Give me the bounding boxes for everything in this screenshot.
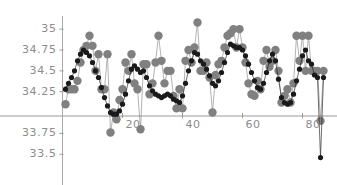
data-point — [216, 78, 221, 83]
data-point — [219, 70, 224, 75]
x-tick-label: 80 — [306, 119, 321, 130]
data-point — [258, 87, 263, 92]
data-point — [246, 62, 251, 67]
data-point — [243, 53, 248, 58]
data-point — [267, 58, 272, 63]
data-point — [85, 32, 93, 40]
data-point — [321, 75, 326, 80]
data-point — [103, 50, 111, 58]
data-point — [61, 100, 69, 108]
data-point — [175, 85, 183, 93]
y-tick-label: 33.75 — [22, 127, 57, 138]
data-point — [300, 53, 305, 58]
data-point — [204, 67, 209, 72]
data-point — [102, 95, 107, 100]
x-tick-label: 60 — [246, 119, 261, 130]
data-point — [240, 47, 245, 52]
data-point — [78, 52, 83, 57]
data-point — [235, 25, 243, 33]
data-point — [75, 58, 80, 63]
x-tick-label: 40 — [186, 119, 201, 130]
data-point — [69, 75, 74, 80]
data-point — [208, 108, 216, 116]
data-point — [94, 50, 102, 58]
data-point — [249, 70, 254, 75]
data-point — [141, 68, 146, 73]
data-point — [193, 18, 201, 26]
y-tick-label: 34.25 — [22, 86, 57, 97]
data-point — [318, 155, 323, 160]
data-point — [283, 85, 291, 93]
data-point — [87, 53, 92, 58]
y-tick-label: 35 — [41, 23, 56, 34]
data-point — [154, 32, 162, 40]
data-point — [303, 47, 308, 52]
data-point — [304, 32, 312, 40]
data-point — [66, 81, 71, 86]
data-point — [225, 50, 230, 55]
data-point — [120, 102, 125, 107]
data-point — [261, 81, 266, 86]
data-point — [252, 78, 257, 83]
data-point — [213, 83, 218, 88]
data-point — [297, 67, 302, 72]
data-point — [201, 62, 206, 67]
data-point — [250, 92, 258, 100]
data-point — [276, 77, 281, 82]
data-point — [70, 85, 78, 93]
data-point — [105, 103, 110, 108]
data-point — [106, 128, 114, 136]
data-point — [180, 93, 185, 98]
data-point — [166, 67, 174, 75]
data-point — [160, 79, 168, 87]
data-point — [88, 42, 96, 50]
chart-plot-area: 33.533.7534.2534.534.7535 20406080 — [0, 0, 337, 185]
data-point — [259, 57, 267, 65]
series-black — [63, 42, 326, 161]
data-point — [288, 100, 293, 105]
data-point — [63, 87, 68, 92]
data-point — [93, 68, 98, 73]
data-point — [315, 75, 320, 80]
data-point — [127, 50, 135, 58]
data-point — [99, 85, 104, 90]
data-point — [211, 71, 219, 79]
data-point — [309, 62, 314, 67]
data-point — [264, 70, 269, 75]
data-point — [183, 81, 188, 86]
data-point — [273, 58, 278, 63]
y-tick-label: 33.5 — [30, 148, 57, 159]
data-point — [73, 77, 81, 85]
x-tick-label: 20 — [126, 119, 141, 130]
data-point — [157, 57, 165, 65]
data-point — [142, 60, 150, 68]
data-point — [96, 75, 101, 80]
data-point — [126, 78, 131, 83]
data-point — [177, 100, 182, 105]
data-point — [319, 67, 327, 75]
data-point — [189, 58, 194, 63]
data-point — [207, 73, 212, 78]
y-tick-label: 34.5 — [30, 65, 57, 76]
data-point — [262, 46, 270, 54]
data-point — [178, 104, 186, 112]
data-point — [294, 78, 299, 83]
data-point — [244, 79, 252, 87]
data-point — [186, 68, 191, 73]
data-point — [117, 108, 122, 113]
data-point — [133, 85, 141, 93]
data-point — [195, 52, 200, 57]
data-point — [222, 60, 227, 65]
data-point — [90, 60, 95, 65]
y-tick-label: 34.75 — [22, 44, 57, 55]
data-point — [123, 92, 128, 97]
data-point — [121, 58, 129, 66]
data-point — [144, 75, 149, 80]
data-point — [270, 52, 275, 57]
data-point — [147, 83, 152, 88]
data-point — [274, 67, 282, 75]
data-point — [72, 68, 77, 73]
data-point — [291, 92, 296, 97]
data-point — [279, 95, 284, 100]
